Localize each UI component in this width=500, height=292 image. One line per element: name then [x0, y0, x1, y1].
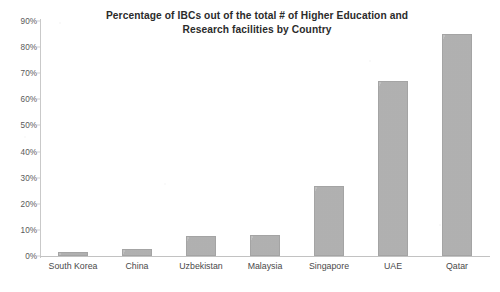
bar-column [250, 21, 280, 256]
y-axis-line [40, 19, 41, 258]
chart-title-line-1: Percentage of IBCs out of the total # of… [92, 9, 422, 23]
bar-qatar[interactable] [442, 34, 472, 256]
y-tick-label-10: 10% [3, 225, 37, 234]
chart-title: Percentage of IBCs out of the total # of… [92, 9, 422, 36]
y-tick-label-90: 90% [3, 17, 37, 26]
y-tick-label-70: 70% [3, 69, 37, 78]
y-tick-mark [37, 229, 40, 230]
y-tick-mark [37, 21, 40, 22]
bar-column [186, 21, 216, 256]
y-tick-label-60: 60% [3, 95, 37, 104]
bar-column [314, 21, 344, 256]
x-tick-label-malaysia: Malaysia [248, 261, 283, 271]
bar-column [58, 21, 88, 256]
y-tick-mark [37, 256, 40, 257]
x-tick-label-singapore: Singapore [309, 261, 349, 271]
chart-title-line-2: Research facilities by Country [92, 23, 422, 37]
y-tick-label-40: 40% [3, 147, 37, 156]
x-tick-label-uzbekistan: Uzbekistan [179, 261, 223, 271]
bar-singapore[interactable] [314, 186, 344, 257]
y-tick-mark [37, 151, 40, 152]
x-tick-label-uae: UAE [384, 261, 402, 271]
x-tick-label-china: China [126, 261, 149, 271]
y-tick-label-0: 0% [3, 252, 37, 261]
bar-chart-figure: Percentage of IBCs out of the total # of… [0, 0, 500, 292]
y-tick-label-80: 80% [3, 43, 37, 52]
bar-column [378, 21, 408, 256]
y-tick-mark [37, 47, 40, 48]
y-tick-label-50: 50% [3, 121, 37, 130]
x-axis-tick-labels: South KoreaChinaUzbekistanMalaysiaSingap… [41, 259, 489, 279]
y-axis-tick-labels: 0%10%20%30%40%50%60%70%80%90% [0, 0, 37, 292]
bar-column [442, 21, 472, 256]
x-tick-label-qatar: Qatar [446, 261, 468, 271]
bar-uzbekistan[interactable] [186, 236, 216, 256]
y-tick-mark [37, 73, 40, 74]
bar-uae[interactable] [378, 81, 408, 256]
y-tick-mark [37, 203, 40, 204]
y-tick-mark [37, 125, 40, 126]
x-axis-line [40, 256, 490, 257]
bar-column [122, 21, 152, 256]
bar-malaysia[interactable] [250, 235, 280, 256]
y-tick-label-20: 20% [3, 199, 37, 208]
y-tick-mark [37, 177, 40, 178]
x-tick-label-south-korea: South Korea [49, 261, 98, 271]
y-tick-label-30: 30% [3, 173, 37, 182]
plot-area [41, 21, 489, 256]
y-tick-mark [37, 99, 40, 100]
